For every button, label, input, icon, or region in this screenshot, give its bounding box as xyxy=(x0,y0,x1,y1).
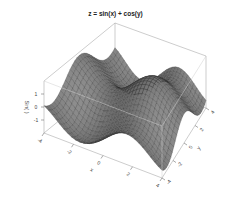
svg-text:0: 0 xyxy=(35,104,38,110)
svg-text:2: 2 xyxy=(126,171,132,178)
svg-text:4: 4 xyxy=(155,182,161,189)
svg-text:4: 4 xyxy=(209,109,216,115)
svg-text:-2: -2 xyxy=(176,161,184,168)
surface-plot: -4-2024x-4-2024y-101Sin( ) xyxy=(0,0,231,210)
svg-text:x: x xyxy=(89,166,95,173)
svg-text:-4: -4 xyxy=(165,178,173,185)
svg-text:1: 1 xyxy=(35,91,38,97)
svg-text:y: y xyxy=(195,145,202,151)
svg-text:Sin( ): Sin( ) xyxy=(24,100,30,113)
svg-text:-4: -4 xyxy=(37,137,44,145)
svg-text:2: 2 xyxy=(198,126,205,132)
svg-text:0: 0 xyxy=(96,159,102,166)
svg-text:-1: -1 xyxy=(34,117,39,123)
svg-text:-2: -2 xyxy=(66,148,73,156)
svg-text:0: 0 xyxy=(187,144,194,150)
